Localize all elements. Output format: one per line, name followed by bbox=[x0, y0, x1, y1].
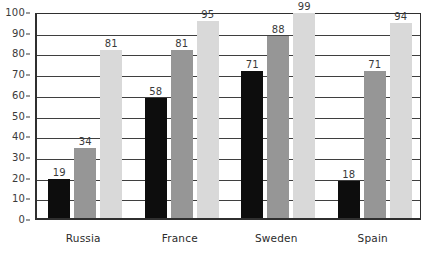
y-tick-mark bbox=[26, 199, 30, 200]
bar-value-label: 99 bbox=[298, 1, 311, 12]
bar-chart: 0102030405060708090100 19348158819571889… bbox=[0, 0, 435, 258]
y-tick-label: 0 bbox=[18, 215, 25, 225]
bar-value-label: 71 bbox=[246, 59, 259, 70]
y-tick-mark bbox=[26, 137, 30, 138]
x-tick-label: Russia bbox=[66, 232, 101, 244]
bar: 18 bbox=[338, 181, 360, 218]
y-tick-mark bbox=[26, 13, 30, 14]
y-tick-mark bbox=[26, 157, 30, 158]
y-tick-label: 100 bbox=[5, 8, 25, 18]
y-tick-mark bbox=[26, 220, 30, 221]
bar-value-label: 71 bbox=[368, 59, 381, 70]
bar-value-label: 95 bbox=[201, 9, 214, 20]
bar: 71 bbox=[364, 71, 386, 218]
y-tick-mark bbox=[26, 33, 30, 34]
y-tick-label: 50 bbox=[12, 112, 25, 122]
y-tick-label: 20 bbox=[12, 174, 25, 184]
bar-value-label: 94 bbox=[394, 11, 407, 22]
y-tick-label: 80 bbox=[12, 49, 25, 59]
bar: 95 bbox=[197, 21, 219, 218]
y-tick-label: 40 bbox=[12, 132, 25, 142]
bar: 71 bbox=[241, 71, 263, 218]
y-tick-mark bbox=[26, 178, 30, 179]
y-tick-label: 30 bbox=[12, 153, 25, 163]
bar-value-label: 34 bbox=[79, 136, 92, 147]
y-tick-label: 60 bbox=[12, 91, 25, 101]
y-tick-label: 90 bbox=[12, 29, 25, 39]
bar: 19 bbox=[48, 179, 70, 218]
bar: 81 bbox=[171, 50, 193, 218]
y-tick-mark bbox=[26, 95, 30, 96]
y-tick-mark bbox=[26, 75, 30, 76]
bar: 34 bbox=[74, 148, 96, 218]
bar: 81 bbox=[100, 50, 122, 218]
y-tick-label: 10 bbox=[12, 194, 25, 204]
bar-value-label: 58 bbox=[149, 86, 162, 97]
bar: 94 bbox=[390, 23, 412, 218]
y-tick-label: 70 bbox=[12, 70, 25, 80]
bar-value-label: 81 bbox=[105, 38, 118, 49]
y-tick-mark bbox=[26, 54, 30, 55]
y-tick-mark bbox=[26, 116, 30, 117]
x-axis: RussiaFranceSwedenSpain bbox=[35, 224, 421, 248]
bar-value-label: 81 bbox=[175, 38, 188, 49]
bar-group: 193481 bbox=[37, 14, 134, 218]
bar-group: 187194 bbox=[327, 14, 424, 218]
x-tick-label: Sweden bbox=[255, 232, 298, 244]
bar-value-label: 18 bbox=[342, 169, 355, 180]
x-tick-label: France bbox=[162, 232, 198, 244]
bar: 58 bbox=[145, 98, 167, 218]
bar-group: 718899 bbox=[230, 14, 327, 218]
bar: 88 bbox=[267, 36, 289, 218]
bar-group: 588195 bbox=[134, 14, 231, 218]
bar-value-label: 88 bbox=[272, 24, 285, 35]
bar: 99 bbox=[293, 13, 315, 218]
y-axis: 0102030405060708090100 bbox=[0, 13, 30, 220]
bars-layer: 193481588195718899187194 bbox=[37, 14, 420, 218]
bar-value-label: 19 bbox=[53, 167, 66, 178]
x-tick-label: Spain bbox=[358, 232, 388, 244]
plot-area: 193481588195718899187194 bbox=[35, 13, 421, 220]
